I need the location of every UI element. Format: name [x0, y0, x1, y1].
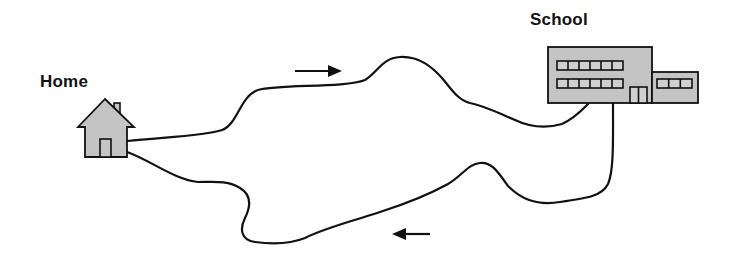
school-windows-upper — [557, 61, 623, 70]
arrow-left-icon — [392, 228, 430, 240]
school-annex-windows — [657, 79, 692, 88]
route-diagram — [0, 0, 740, 256]
school-windows-lower — [557, 79, 623, 88]
route-to-home — [127, 103, 613, 243]
route-to-school — [127, 57, 588, 141]
school-door — [630, 87, 647, 103]
house-door — [100, 139, 111, 157]
house-icon — [78, 99, 134, 157]
school-building-icon — [548, 47, 698, 103]
arrow-right-icon — [295, 65, 342, 77]
